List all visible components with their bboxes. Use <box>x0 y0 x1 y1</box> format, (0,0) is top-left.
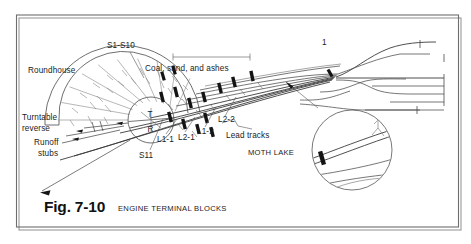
label-turntable-reverse-line2: reverse <box>22 124 50 133</box>
label-lead-tracks: Lead tracks <box>226 131 269 140</box>
figure-caption: ENGINE TERMINAL BLOCKS <box>118 204 227 213</box>
label-lead-l2-2: L2-2 <box>218 115 235 124</box>
label-coal-sand-ashes: Coal, sand, and ashes <box>145 64 229 73</box>
track-plan-illustration: T R <box>0 0 471 244</box>
label-stall-eleven: S11 <box>139 151 154 160</box>
label-lead-l1-2: L1-2 <box>197 127 214 136</box>
label-stalls: S1-S10 <box>107 41 135 50</box>
label-runoff-stubs-line1: Runoff <box>34 138 59 147</box>
label-moth-lake: MOTH LAKE <box>248 148 294 157</box>
label-junction-one: 1 <box>322 38 327 47</box>
label-roundhouse: Roundhouse <box>28 66 76 75</box>
label-lead-l2-1: L2-1 <box>178 133 195 142</box>
figure-container: T R <box>0 0 471 244</box>
label-runoff-stubs-line2: stubs <box>38 149 58 158</box>
label-turntable-reverse-line1: Turntable <box>22 113 58 122</box>
figure-number: Fig. 7-10 <box>44 198 105 215</box>
label-lead-l1-1: L1-1 <box>157 135 174 144</box>
